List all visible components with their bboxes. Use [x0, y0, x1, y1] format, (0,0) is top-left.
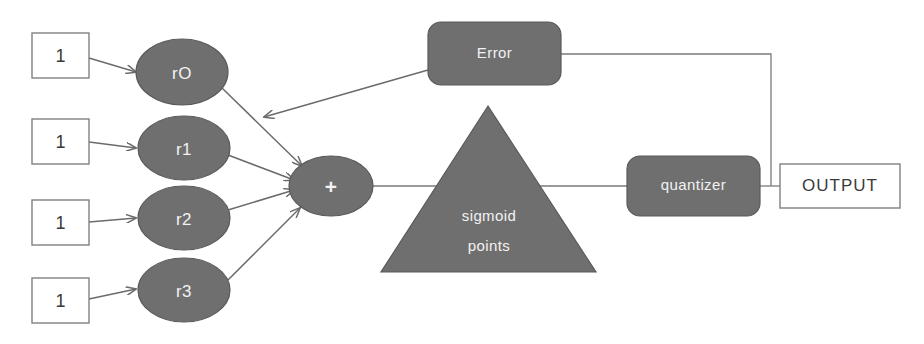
neuron-r0-label: rO [172, 64, 192, 83]
neuron-node-r3[interactable]: r3 [138, 258, 230, 322]
activation-line1-label: sigmoid [462, 207, 517, 224]
input-box-3-label: 1 [55, 213, 65, 233]
diagram-canvas: 1 1 1 1 rO r1 r2 r3 [0, 0, 924, 344]
input-box-4-label: 1 [55, 291, 65, 311]
activation-triangle[interactable]: sigmoid points [381, 106, 596, 272]
input-box-2[interactable]: 1 [32, 119, 89, 164]
error-block[interactable]: Error [428, 22, 561, 85]
edge-input3-to-r2 [89, 218, 136, 222]
input-box-2-label: 1 [55, 132, 65, 152]
summing-node[interactable]: + [289, 156, 373, 216]
edge-r2-to-sum [228, 190, 294, 210]
input-box-1[interactable]: 1 [32, 33, 89, 78]
quantizer-block[interactable]: quantizer [627, 156, 760, 216]
activation-line2-label: points [468, 237, 510, 254]
neuron-r1-label: r1 [176, 140, 192, 159]
input-box-3[interactable]: 1 [32, 200, 89, 245]
edge-r3-to-sum [228, 208, 300, 280]
edge-input2-to-r1 [89, 142, 136, 148]
edge-input4-to-r3 [89, 289, 136, 299]
neuron-node-r1[interactable]: r1 [138, 116, 230, 180]
quantizer-block-label: quantizer [661, 176, 726, 193]
input-box-1-label: 1 [55, 46, 65, 66]
edge-r1-to-sum [228, 155, 294, 180]
neuron-r3-label: r3 [176, 282, 192, 301]
summing-node-label: + [325, 175, 337, 198]
neuron-node-r0[interactable]: rO [136, 39, 228, 105]
edge-error-to-sum [264, 70, 428, 117]
output-block-label: OUTPUT [802, 176, 878, 195]
error-block-label: Error [477, 44, 512, 61]
diagram-svg: 1 1 1 1 rO r1 r2 r3 [0, 0, 924, 344]
neuron-r2-label: r2 [176, 210, 192, 229]
edge-r0-to-sum [222, 88, 302, 166]
input-box-4[interactable]: 1 [32, 278, 89, 323]
neuron-node-r2[interactable]: r2 [138, 186, 230, 250]
output-block[interactable]: OUTPUT [780, 164, 900, 208]
edge-input1-to-r0 [89, 58, 136, 72]
